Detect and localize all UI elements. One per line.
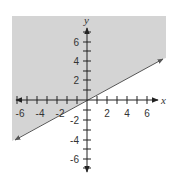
inequality-graph: x y -6 -4 -2 2 4 6 6 4 2 -2 -4 -6 (0, 0, 176, 179)
y-tick-label: -4 (70, 135, 79, 146)
y-tick-label: -2 (70, 115, 79, 126)
y-tick-label: 6 (73, 37, 79, 48)
x-tick-label: 4 (124, 108, 130, 119)
x-tick-label: -4 (36, 108, 45, 119)
x-tick-label: 6 (144, 108, 150, 119)
x-tick-label: -2 (56, 108, 65, 119)
x-axis-label: x (160, 94, 166, 106)
y-tick-label: 2 (73, 75, 79, 86)
y-axis-label: y (83, 14, 89, 26)
shaded-region (12, 16, 166, 141)
y-tick-label: -6 (70, 154, 79, 165)
x-tick-label: -6 (16, 108, 25, 119)
x-tick-label: 2 (104, 108, 110, 119)
y-tick-label: 4 (73, 56, 79, 67)
